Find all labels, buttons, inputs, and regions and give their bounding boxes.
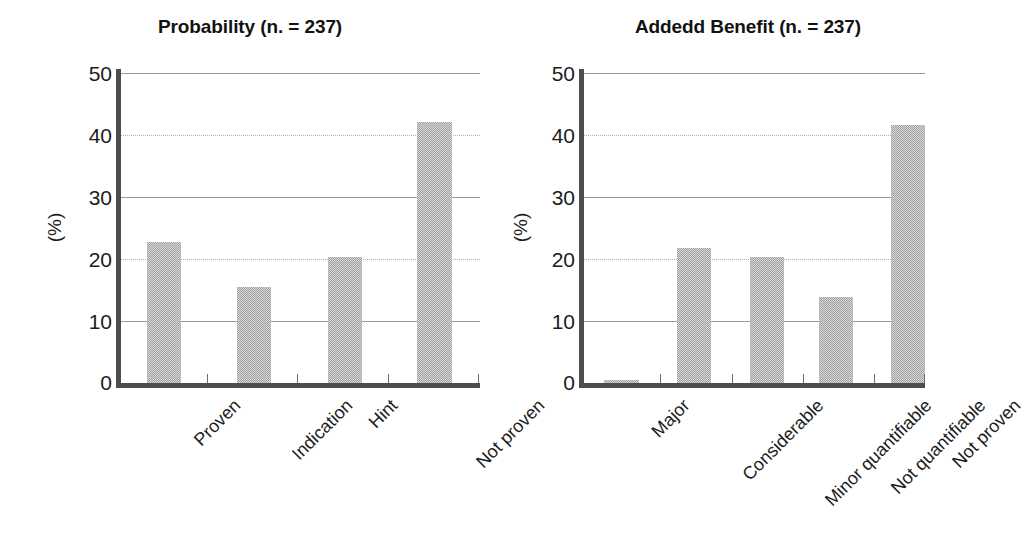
x-label-indication: Indication — [289, 396, 356, 463]
bar-considerable[interactable] — [677, 248, 711, 383]
x-tick-3 — [388, 374, 389, 383]
x-label-considerable: Considerable — [739, 396, 827, 484]
y-tick-label-10-right: 10 — [552, 311, 575, 332]
y-tick-label-30: 30 — [89, 187, 112, 208]
y-tick-label-50-right: 50 — [552, 63, 575, 84]
y-axis-title-added-benefit: (%) — [511, 213, 530, 243]
y-tick-label-40-right: 40 — [552, 125, 575, 146]
y-axis-title-probability: (%) — [45, 213, 64, 243]
x-tick-2 — [297, 374, 298, 383]
y-tick-label-0: 0 — [100, 372, 112, 393]
bar-not-proven[interactable] — [417, 122, 452, 383]
x-tick-4-right — [874, 374, 875, 383]
y-axis-line-added-benefit — [579, 69, 584, 387]
x-label-hint: Hint — [365, 396, 400, 431]
bar-hint[interactable] — [328, 257, 362, 383]
chart-title-added-benefit: Addedd Benefit (n. = 237) — [470, 16, 988, 38]
gridline-50: 50 — [121, 73, 480, 74]
y-axis-line-probability — [116, 69, 121, 387]
x-tick-5-right — [924, 374, 925, 383]
x-tick-1-right — [660, 374, 661, 383]
y-tick-label-0-right: 0 — [563, 372, 575, 393]
y-tick-label-40: 40 — [89, 125, 112, 146]
plot-area-added-benefit: 50 40 30 20 10 0 — [584, 73, 925, 383]
x-axis-line-probability — [116, 383, 480, 388]
bar-indication[interactable] — [237, 287, 271, 383]
chart-panel-added-benefit: Addedd Benefit (n. = 237) (%) 50 40 30 2… — [470, 0, 988, 554]
bar-major[interactable] — [604, 380, 639, 383]
bar-proven[interactable] — [147, 242, 181, 383]
x-axis-line-added-benefit — [579, 383, 925, 388]
y-tick-label-30-right: 30 — [552, 187, 575, 208]
bar-minor-quantifiable[interactable] — [750, 257, 784, 384]
x-tick-2-right — [732, 374, 733, 383]
y-tick-label-20-right: 20 — [552, 249, 575, 270]
y-tick-label-10: 10 — [89, 311, 112, 332]
gridline-50-right: 50 — [584, 73, 925, 74]
chart-panel-probability: Probability (n. = 237) (%) 50 40 30 20 1… — [0, 0, 500, 554]
gridline-40-right: 40 — [584, 135, 925, 136]
x-tick-1 — [207, 374, 208, 383]
y-tick-label-50: 50 — [89, 63, 112, 84]
bar-not-quantifiable[interactable] — [819, 297, 853, 383]
chart-title-probability: Probability (n. = 237) — [0, 16, 500, 38]
gridline-30-right: 30 — [584, 197, 925, 198]
x-label-major: Major — [648, 396, 693, 441]
x-tick-3-right — [803, 374, 804, 383]
x-label-proven: Proven — [191, 396, 244, 449]
y-tick-label-20: 20 — [89, 249, 112, 270]
bar-not-proven-right[interactable] — [891, 125, 925, 383]
plot-area-probability: 50 40 30 20 10 0 — [121, 73, 480, 383]
